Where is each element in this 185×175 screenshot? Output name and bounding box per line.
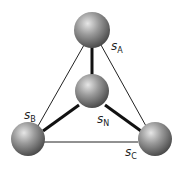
sphere-a (74, 12, 110, 48)
label-sn: sN (97, 112, 109, 128)
sphere-n (75, 74, 109, 108)
edge-c-n (105, 105, 141, 131)
label-sb: sB (24, 108, 36, 124)
sphere-c (138, 122, 172, 156)
edge-b-n (43, 105, 79, 131)
tetrahedron-diagram: sA sN sB sC (0, 0, 185, 175)
label-sc: sC (125, 145, 137, 161)
sphere-b (11, 122, 45, 156)
label-sa: sA (111, 39, 123, 55)
